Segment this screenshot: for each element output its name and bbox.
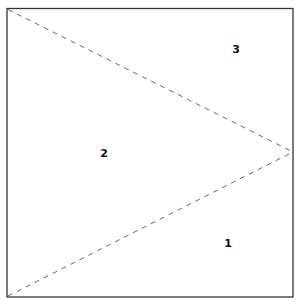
region-label-3: 3 [232, 43, 240, 56]
square-border [7, 9, 293, 298]
region-label-1: 1 [224, 237, 232, 250]
region-label-2: 2 [100, 147, 108, 160]
diagram-canvas: 3 2 1 [0, 0, 300, 307]
dashed-line-bottom [8, 152, 293, 296]
dashed-line-top [8, 10, 293, 153]
